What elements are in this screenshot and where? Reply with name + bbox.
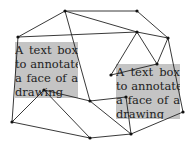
graph-node <box>88 99 91 102</box>
graph-edge <box>111 32 137 75</box>
graph-edge <box>18 32 137 37</box>
graph-edge <box>65 11 90 101</box>
graph-edge <box>12 90 44 122</box>
graph-node <box>109 73 112 76</box>
graph-node <box>129 132 132 135</box>
graph-nodes <box>10 9 184 139</box>
graph-node <box>10 120 13 123</box>
planar-graph-figure: A text box to annotate a face of a drawi… <box>0 0 195 149</box>
graph-edge <box>44 90 90 138</box>
graph-edges-and-nodes <box>0 0 195 149</box>
graph-edge <box>131 112 183 134</box>
graph-node <box>181 110 184 113</box>
graph-node <box>135 9 138 12</box>
graph-node <box>124 95 127 98</box>
graph-edge <box>90 97 126 101</box>
graph-edge <box>111 64 157 75</box>
graph-node <box>166 36 169 39</box>
graph-node <box>135 30 138 33</box>
graph-edge <box>157 38 168 64</box>
graph-edge <box>65 11 137 32</box>
graph-edge <box>44 90 90 101</box>
graph-node <box>16 35 19 38</box>
graph-edge <box>12 122 90 138</box>
graph-edge <box>137 32 168 38</box>
graph-node <box>63 9 66 12</box>
graph-node <box>42 88 45 91</box>
graph-edge <box>90 134 131 138</box>
graph-edge <box>137 11 168 38</box>
graph-edge <box>137 32 157 64</box>
graph-edge <box>12 37 18 122</box>
graph-edge <box>90 101 131 134</box>
graph-edge <box>126 97 131 134</box>
graph-node <box>155 62 158 65</box>
graph-edge <box>18 11 65 37</box>
graph-edge <box>168 38 183 112</box>
graph-edges <box>12 11 183 138</box>
graph-node <box>88 136 91 139</box>
